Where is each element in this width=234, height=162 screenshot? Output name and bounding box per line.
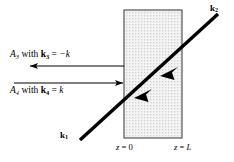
label-z-L-value: L — [187, 142, 192, 152]
label-k2-subscript: 2 — [215, 6, 218, 13]
label-z-L: z = L — [174, 143, 191, 152]
label-z-zero: z = 0 — [116, 143, 133, 152]
physics-diagram-slab-scattering: k2 k1 A3 with k3 = −k A4 with k4 = k z =… — [0, 0, 234, 162]
label-z-L-equals: = — [177, 142, 186, 152]
label-a4-equals: = — [49, 85, 59, 95]
label-a4-connector: with — [19, 85, 41, 95]
label-z-zero-equals: = — [119, 142, 128, 152]
diagram-canvas — [0, 0, 234, 162]
label-a3-equals: = — [49, 49, 59, 59]
label-k1: k1 — [60, 131, 68, 141]
label-a3-value: −k — [59, 49, 70, 59]
label-k1-subscript: 1 — [65, 133, 68, 140]
label-a4-expression: A4 with k4 = k — [10, 86, 63, 96]
label-a3-expression: A3 with k3 = −k — [10, 50, 70, 60]
label-a4-value: k — [59, 85, 63, 95]
label-k2: k2 — [210, 4, 218, 14]
label-z-zero-value: 0 — [129, 142, 133, 152]
label-a3-connector: with — [19, 49, 41, 59]
